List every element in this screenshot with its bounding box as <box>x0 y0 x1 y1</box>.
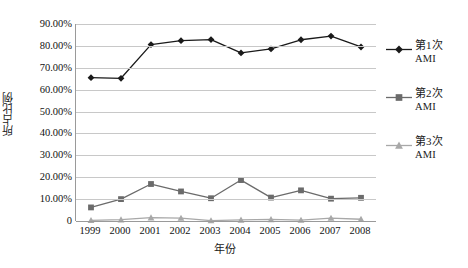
series-line <box>91 36 361 78</box>
series-1 <box>88 33 365 82</box>
y-axis-tick-label: 60.00% <box>14 85 72 95</box>
legend-label-1: 第1次AMI <box>415 38 443 66</box>
gridline <box>76 24 376 25</box>
data-point-marker <box>178 189 184 195</box>
legend-entry-2[interactable]: 第2次AMI <box>386 88 468 118</box>
y-axis-tick-label: 30.00% <box>14 150 72 160</box>
data-point-marker <box>238 49 245 56</box>
series-line <box>91 180 361 207</box>
gridline <box>76 68 376 69</box>
data-point-marker <box>358 44 365 51</box>
y-axis-tick-label: 70.00% <box>14 63 72 73</box>
chart-plot-svg <box>76 24 376 221</box>
legend-marker-diamond-icon <box>386 41 412 52</box>
data-point-marker <box>396 94 403 101</box>
series-2 <box>88 177 364 210</box>
y-axis-tick-label: 50.00% <box>14 107 72 117</box>
y-axis-tick-label: 0 <box>14 216 72 226</box>
gridline <box>76 112 376 113</box>
data-point-marker <box>178 37 185 44</box>
y-axis-tick-label: 20.00% <box>14 172 72 182</box>
data-point-marker <box>88 205 94 211</box>
x-axis-title: 年份 <box>75 243 375 256</box>
chart-legend: 第1次AMI第2次AMI第3次AMI <box>386 40 468 184</box>
legend-marker-triangle-icon <box>386 137 412 148</box>
x-axis-tick-labels: 1999200020012002200320042005200620072008 <box>75 224 375 240</box>
x-axis-tick-label: 2008 <box>338 224 382 237</box>
data-point-marker <box>298 187 304 193</box>
data-point-marker <box>88 74 95 81</box>
data-point-marker <box>208 36 215 43</box>
legend-marker-square-icon <box>386 89 412 100</box>
data-point-marker <box>395 46 403 54</box>
gridline <box>76 221 376 222</box>
gridline <box>76 177 376 178</box>
gridline <box>76 133 376 134</box>
gridline <box>76 155 376 156</box>
legend-label-3: 第3次AMI <box>415 134 443 162</box>
plot-area <box>75 24 376 221</box>
gridline <box>76 46 376 47</box>
y-axis-tick-labels: 90.00%80.00%70.00%60.00%50.00%40.00%30.0… <box>14 0 72 268</box>
data-point-marker <box>298 36 305 43</box>
gridline <box>76 90 376 91</box>
legend-entry-1[interactable]: 第1次AMI <box>386 40 468 70</box>
legend-label-2: 第2次AMI <box>415 86 443 114</box>
y-axis-tick-label: 10.00% <box>14 194 72 204</box>
y-axis-tick-label: 40.00% <box>14 128 72 138</box>
y-axis-tick-label: 80.00% <box>14 41 72 51</box>
y-axis-tick-label: 90.00% <box>14 19 72 29</box>
data-point-marker <box>148 181 154 187</box>
chart-container: 所占比例 90.00%80.00%70.00%60.00%50.00%40.00… <box>0 0 468 268</box>
gridline <box>76 199 376 200</box>
data-point-marker <box>328 33 335 40</box>
legend-entry-3[interactable]: 第3次AMI <box>386 136 468 166</box>
